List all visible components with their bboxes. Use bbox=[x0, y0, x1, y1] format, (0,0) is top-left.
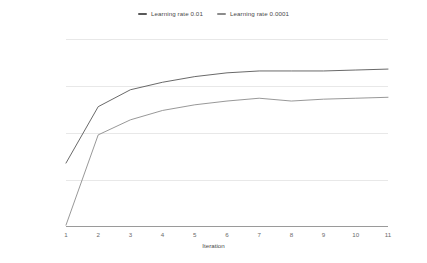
x-axis-tick-label: 4 bbox=[153, 231, 173, 238]
dash-marker-icon bbox=[138, 13, 147, 15]
plot-area bbox=[66, 39, 388, 227]
chart-legend: Learning rate 0.01 Learning rate 0.0001 bbox=[0, 10, 427, 17]
x-axis-tick-label: 1 bbox=[56, 231, 76, 238]
x-axis-tick-label: 10 bbox=[346, 231, 366, 238]
legend-item-learning-rate-0-01[interactable]: Learning rate 0.01 bbox=[138, 10, 203, 17]
x-axis-tick-label: 5 bbox=[185, 231, 205, 238]
x-axis-tick-label: 9 bbox=[314, 231, 334, 238]
x-axis-tick-label: 8 bbox=[281, 231, 301, 238]
x-axis-label: Iteration bbox=[0, 242, 427, 249]
series-container bbox=[66, 39, 388, 227]
legend-label: Learning rate 0.01 bbox=[151, 10, 203, 17]
x-axis-tick-label: 2 bbox=[88, 231, 108, 238]
series-line-1 bbox=[66, 69, 388, 163]
series-line-2 bbox=[66, 97, 388, 225]
x-axis-tick-label: 6 bbox=[217, 231, 237, 238]
legend-item-learning-rate-0-0001[interactable]: Learning rate 0.0001 bbox=[217, 10, 289, 17]
x-axis-tick-label: 11 bbox=[378, 231, 398, 238]
x-axis-tick-label: 3 bbox=[120, 231, 140, 238]
legend-label: Learning rate 0.0001 bbox=[230, 10, 289, 17]
dash-marker-icon bbox=[217, 13, 226, 15]
x-axis-tick-label: 7 bbox=[249, 231, 269, 238]
line-chart: Learning rate 0.01 Learning rate 0.0001 … bbox=[0, 0, 427, 263]
